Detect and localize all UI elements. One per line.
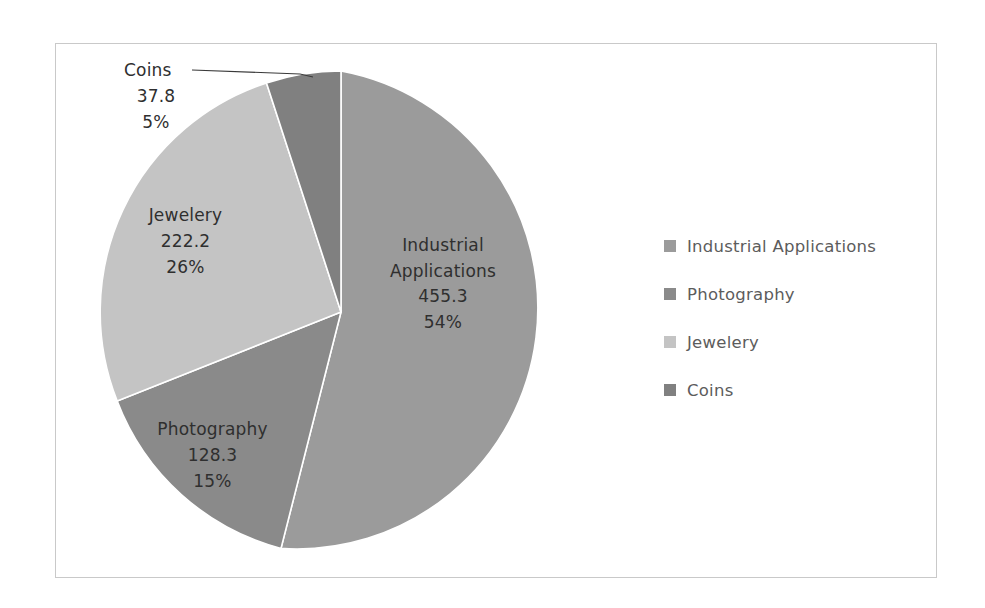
chart-legend: Industrial Applications Photography Jewe… <box>664 236 914 428</box>
legend-item-industrial-applications[interactable]: Industrial Applications <box>664 236 914 256</box>
chart-plot-area: Industrial Applications 455.3 54% Jewele… <box>0 0 985 608</box>
legend-swatch-icon <box>664 336 676 348</box>
legend-swatch-icon <box>664 240 676 252</box>
legend-swatch-icon <box>664 288 676 300</box>
legend-item-label: Coins <box>687 381 734 400</box>
legend-item-label: Jewelery <box>687 333 759 352</box>
legend-item-jewelery[interactable]: Jewelery <box>664 332 914 352</box>
legend-item-label: Photography <box>687 285 795 304</box>
legend-item-photography[interactable]: Photography <box>664 284 914 304</box>
legend-item-label: Industrial Applications <box>687 237 876 256</box>
legend-item-coins[interactable]: Coins <box>664 380 914 400</box>
legend-swatch-icon <box>664 384 676 396</box>
